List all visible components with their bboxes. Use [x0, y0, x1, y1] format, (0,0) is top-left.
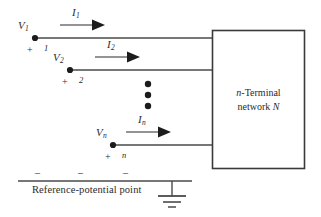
current-label-1: I1: [72, 7, 80, 19]
minus-sign-3: –: [123, 168, 128, 178]
current-label-2: I2: [107, 39, 115, 51]
terminal-1-node-dot: [32, 35, 38, 41]
terminal-2-node-dot: [67, 67, 73, 73]
earth-ground-icon: [158, 181, 186, 207]
minus-sign-1: –: [35, 168, 40, 178]
vertical-ellipsis-icon: [145, 81, 151, 109]
current-arrow-2: [95, 52, 140, 63]
terminal-n-node-dot: [110, 142, 116, 148]
terminal-number-2: 2: [79, 76, 83, 85]
current-arrow-n: [126, 127, 171, 138]
polarity-sign-1: +: [27, 45, 33, 55]
minus-sign-2: –: [78, 168, 83, 178]
network-box-line1: n-Terminal: [212, 86, 305, 100]
current-arrow-1: [60, 20, 105, 31]
polarity-sign-2: +: [62, 77, 68, 87]
circuit-diagram-figure: V1 I1 + 1 V2 I2 + 2 Vn In + n n-Terminal…: [0, 0, 321, 217]
terminal-number-1: 1: [44, 44, 48, 53]
current-label-n: In: [138, 114, 146, 126]
voltage-label-1: V1: [18, 20, 29, 32]
reference-potential-caption: Reference-potential point: [32, 185, 142, 196]
terminal-number-n: n: [122, 151, 126, 160]
network-box-line2: network N: [212, 100, 305, 114]
polarity-sign-n: +: [105, 152, 111, 162]
voltage-label-2: V2: [53, 52, 64, 64]
voltage-label-n: Vn: [96, 127, 107, 139]
network-box-label: n-Terminal network N: [212, 86, 305, 113]
